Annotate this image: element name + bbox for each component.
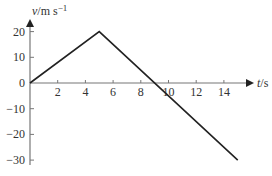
y-tick-label: 0 — [19, 76, 25, 90]
y-tick-label: 10 — [13, 50, 25, 64]
x-tick-label: 4 — [82, 85, 88, 99]
y-tick-label: 20 — [13, 25, 25, 39]
x-axis-arrow-icon — [246, 79, 254, 87]
y-tick-label: −30 — [6, 153, 25, 167]
x-tick-label: 12 — [190, 85, 202, 99]
velocity-time-chart: 2468101214 20100−10−20−30 v/m s−1 t/s — [0, 0, 272, 176]
x-tick-label: 8 — [138, 85, 144, 99]
y-axis-arrow-icon — [26, 19, 34, 27]
y-tick-label: −10 — [6, 102, 25, 116]
x-tick-label: 14 — [218, 85, 230, 99]
x-tick-label: 6 — [110, 85, 116, 99]
y-axis-label: v/m s−1 — [32, 3, 67, 18]
x-tick-label: 2 — [55, 85, 61, 99]
y-tick-label: −20 — [6, 127, 25, 141]
x-axis-label: t/s — [257, 76, 269, 90]
velocity-line — [30, 32, 238, 161]
